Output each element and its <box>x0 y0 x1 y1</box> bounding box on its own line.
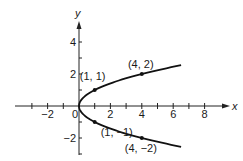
data-point <box>140 136 144 140</box>
x-tick-label: 0 <box>72 108 78 120</box>
x-tick-label: 8 <box>202 108 208 120</box>
data-point <box>93 88 97 92</box>
x-axis-arrow-icon <box>222 104 230 109</box>
x-tick-label: −2 <box>41 108 54 120</box>
y-axis-arrow-icon <box>77 21 82 29</box>
point-label: (4, 2) <box>128 58 154 70</box>
parabola-chart: −20246842−2 (1, 1)(4, 2)(1, −1)(4, −2) x… <box>0 0 243 161</box>
x-tick-label: 6 <box>170 108 176 120</box>
data-point <box>140 72 144 76</box>
y-tick-label: −2 <box>63 132 76 144</box>
y-tick-label: 4 <box>70 36 76 48</box>
point-label: (4, −2) <box>125 142 157 154</box>
data-point <box>93 120 97 124</box>
x-axis-label: x <box>231 100 238 112</box>
y-axis-label: y <box>74 7 82 19</box>
y-tick-label: 2 <box>70 68 76 80</box>
point-label: (1, 1) <box>80 70 106 82</box>
x-tick-label: 4 <box>139 108 145 120</box>
x-tick-label: 2 <box>107 108 113 120</box>
point-label: (1, −1) <box>101 126 133 138</box>
